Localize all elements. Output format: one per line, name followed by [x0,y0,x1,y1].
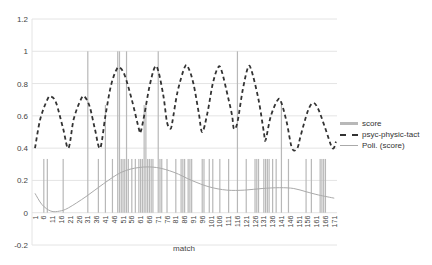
score-bar [265,159,266,213]
x-axis-title: match [173,244,195,253]
x-tick-label: 131 [260,216,267,228]
y-tick-label: -0.2 [14,241,28,250]
x-tick-label: 1 [32,216,39,220]
x-tick-label: 66 [146,216,153,224]
dashed-line-swatch-icon [340,134,358,136]
score-bar [119,51,120,212]
score-bar [321,159,322,213]
x-tick-label: 116 [234,216,241,227]
x-tick-label: 126 [252,216,259,228]
x-tick-label: 151 [296,216,303,228]
x-tick-label: 146 [287,216,294,228]
x-tick-label: 101 [208,216,215,228]
score-bar [43,159,44,213]
x-tick-label: 161 [313,216,320,228]
x-tick-label: 11 [49,216,56,223]
legend-item-score: score [340,118,419,129]
x-tick-label: 156 [304,216,311,228]
x-tick-label: 106 [216,216,223,228]
score-bar [288,159,289,213]
x-axis: 1611162126313641465156616671768186919610… [32,216,338,228]
line-series [35,65,336,212]
score-bar [276,159,277,213]
x-tick-label: 36 [93,216,100,224]
score-bar [323,159,324,213]
legend-label: Poli. (score) [362,140,405,151]
x-tick-label: 111 [225,216,232,227]
y-tick-label: 0.4 [17,144,29,153]
score-bar [256,159,257,213]
score-bar [219,159,220,213]
score-bar [237,51,238,212]
x-tick-label: 41 [102,216,109,224]
score-bar [258,159,259,213]
score-bar [182,159,183,213]
score-bar [112,159,113,213]
score-bar [159,159,160,213]
score-bars [43,51,326,212]
x-tick-label: 16 [58,216,65,224]
chart: 1.210.80.60.40.20-0.2 161116212631364146… [0,0,432,265]
score-bar [166,159,167,213]
score-bar [175,159,176,213]
score-bar [184,159,185,213]
score-bar [144,105,145,213]
score-bar [189,159,190,213]
score-bar [188,159,189,213]
y-tick-label: 1.2 [17,15,29,24]
score-bar [122,159,123,213]
x-tick-label: 136 [269,216,276,228]
y-tick-label: 0 [24,209,29,218]
score-bar [47,159,48,213]
x-tick-label: 51 [120,216,127,224]
score-bar [126,51,127,212]
score-bar [145,105,146,213]
x-tick-label: 71 [155,216,162,224]
x-tick-label: 56 [128,216,135,224]
score-bar [128,159,129,213]
score-bar [228,159,229,213]
score-bar [124,159,125,213]
x-tick-label: 86 [181,216,188,224]
score-bar [135,159,136,213]
score-bar [263,159,264,213]
score-bar [212,159,213,213]
legend-item-psyc-physic-tact: psyc-physic-tact [340,129,419,140]
score-bar [254,159,255,213]
score-bar [305,159,306,213]
score-bar [311,159,312,213]
bar-swatch-icon [340,122,358,125]
x-tick-label: 26 [76,216,83,224]
psyc-physic-tact-line [35,65,336,151]
score-bar [202,159,203,213]
x-tick-label: 31 [84,216,91,224]
score-bar [98,159,99,213]
score-bar [281,105,282,213]
score-bar [121,159,122,213]
score-bar [269,159,270,213]
legend-label: psyc-physic-tact [362,129,419,140]
score-bar [63,159,64,213]
score-bar [267,159,268,213]
score-bar [117,51,118,212]
legend-label: score [362,118,382,129]
y-tick-label: 0.2 [17,176,29,185]
score-bar [246,159,247,213]
x-tick-label: 46 [111,216,118,224]
x-tick-label: 171 [331,216,338,228]
x-tick-label: 21 [67,216,74,224]
solid-line-swatch-icon [340,145,358,146]
x-tick-label: 76 [164,216,171,224]
x-tick-label: 61 [137,216,144,224]
x-tick-label: 121 [243,216,250,228]
score-bar [131,159,132,213]
score-bar [87,51,88,212]
legend-item-poly-trend: Poli. (score) [340,140,419,151]
y-tick-label: 0.6 [17,112,29,121]
score-bar [191,159,192,213]
score-bar [180,159,181,213]
y-tick-label: 0.8 [17,80,29,89]
score-bar [325,159,326,213]
score-bar [272,159,273,213]
score-bar [105,105,106,213]
